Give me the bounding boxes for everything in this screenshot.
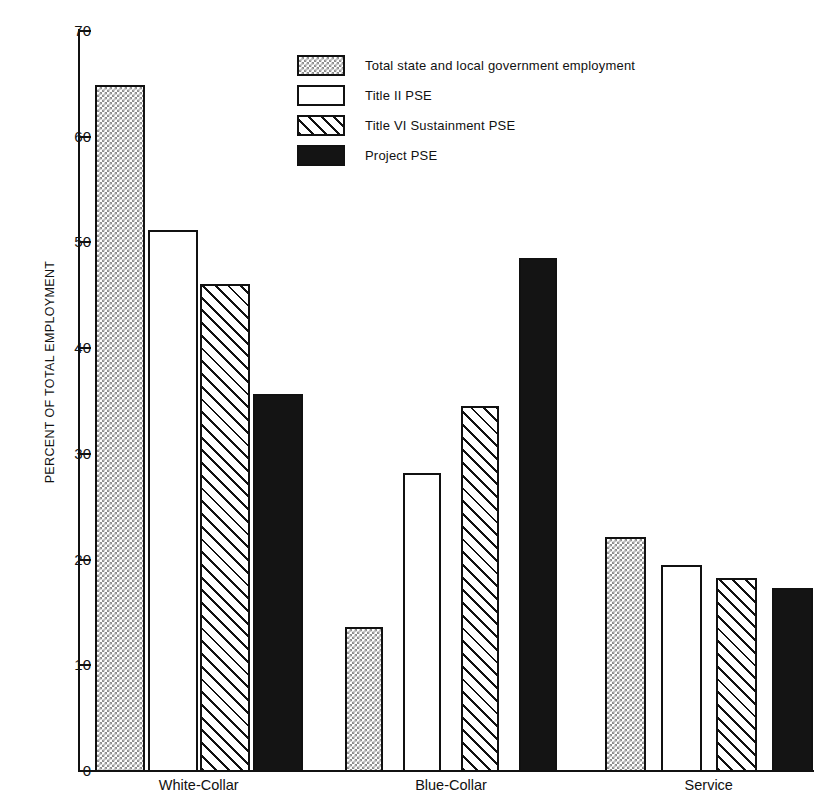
bar: [519, 258, 557, 772]
legend-label: Project PSE: [365, 148, 437, 163]
bar: [403, 473, 441, 772]
category-label-blue-collar: Blue-Collar: [415, 777, 487, 793]
bar: [772, 588, 813, 772]
legend-item: Title VI Sustainment PSE: [297, 112, 717, 138]
legend-swatch-solid: [297, 145, 345, 166]
category-label-service: Service: [685, 777, 733, 793]
legend-label: Title VI Sustainment PSE: [365, 118, 515, 133]
bar: [253, 394, 303, 772]
bar: [716, 578, 757, 773]
bar-chart: PERCENT OF TOTAL EMPLOYMENT 010203040506…: [0, 0, 822, 805]
legend-item: Total state and local government employm…: [297, 52, 717, 78]
legend-item: Title II PSE: [297, 82, 717, 108]
category-label-white-collar: White-Collar: [159, 777, 239, 793]
bar: [148, 230, 198, 772]
chart-legend: Total state and local government employm…: [297, 52, 717, 172]
bar: [200, 284, 250, 772]
legend-swatch-checker: [297, 55, 345, 76]
bar: [661, 565, 702, 772]
legend-label: Title II PSE: [365, 88, 432, 103]
legend-item: Project PSE: [297, 142, 717, 168]
bar: [605, 537, 646, 772]
legend-swatch-open: [297, 85, 345, 106]
legend-swatch-hatch: [297, 115, 345, 136]
bar: [345, 627, 383, 772]
bar: [95, 85, 145, 772]
legend-label: Total state and local government employm…: [365, 58, 635, 73]
bar: [461, 406, 499, 772]
